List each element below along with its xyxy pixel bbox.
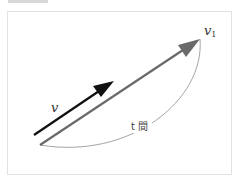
v-label: v: [51, 100, 59, 115]
v1-arrow: [40, 44, 192, 145]
v-arrow: [34, 85, 108, 135]
v1-arrowhead-icon: [178, 39, 200, 57]
v1-label: v1: [204, 23, 216, 39]
time-label: t 間: [131, 121, 148, 132]
velocity-diagram: v v1 t 間: [0, 0, 242, 180]
v-arrowhead-icon: [93, 81, 114, 97]
